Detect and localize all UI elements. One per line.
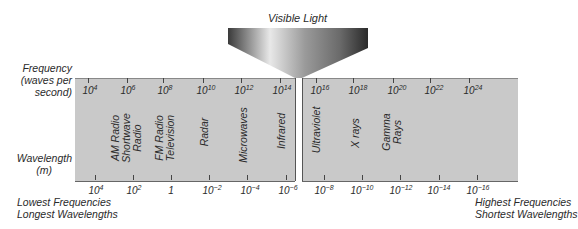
freq-label: 104 — [82, 84, 97, 96]
wavelength-label: 10−4 — [240, 184, 259, 196]
wavelength-label: 104 — [88, 184, 103, 196]
freq-tick — [430, 78, 431, 83]
freq-label: 1022 — [425, 84, 444, 96]
region-infrared: Infrared — [276, 113, 287, 149]
freq-label: 106 — [120, 84, 135, 96]
visible-light-title: Visible Light — [268, 12, 327, 24]
freq-tick — [127, 78, 128, 83]
freq-label: 1016 — [311, 84, 330, 96]
wavelength-tick — [133, 175, 134, 180]
freq-tick — [163, 78, 164, 83]
freq-label: 1010 — [197, 84, 216, 96]
freq-tick — [353, 78, 354, 83]
spectrum-band-right — [302, 78, 518, 182]
freq-tick — [280, 78, 281, 83]
freq-label: 1012 — [235, 84, 254, 96]
wavelength-label: 102 — [126, 184, 141, 196]
frequency-axis-label: Frequency (waves per second) — [0, 62, 72, 98]
wavelength-label: 1 — [168, 184, 174, 196]
wavelength-tick — [477, 175, 478, 180]
wavelength-tick — [171, 175, 172, 180]
wavelength-tick — [362, 175, 363, 180]
wavelength-label: 10−16 — [467, 184, 490, 196]
region-x-rays: X rays — [350, 118, 361, 148]
wavelength-tick — [286, 175, 287, 180]
wavelength-axis-label: Wavelength (m) — [0, 152, 72, 176]
freq-tick — [316, 78, 317, 83]
freq-tick — [88, 78, 89, 83]
freq-label: 1018 — [349, 84, 368, 96]
wavelength-tick — [324, 175, 325, 180]
region-microwaves: Microwaves — [238, 107, 249, 162]
wavelength-tick — [439, 175, 440, 180]
highest-frequencies-caption: Highest Frequencies Shortest Wavelengths — [475, 196, 578, 220]
freq-label: 1014 — [273, 84, 292, 96]
region-gamma-rays: GammaRays — [381, 113, 403, 150]
wavelength-label: 10−14 — [428, 184, 451, 196]
freq-label: 108 — [157, 84, 172, 96]
wavelength-tick — [209, 175, 210, 180]
region-ultraviolet: Ultraviolet — [311, 107, 322, 154]
wavelength-label: 10−12 — [390, 184, 413, 196]
freq-tick — [241, 78, 242, 83]
freq-tick — [203, 78, 204, 83]
region-fm-radio-television: FM RadioTelevision — [154, 115, 176, 161]
freq-label: 1024 — [464, 84, 483, 96]
wavelength-label: 10−6 — [278, 184, 297, 196]
freq-tick — [469, 78, 470, 83]
wavelength-tick — [400, 175, 401, 180]
wavelength-label: 10−10 — [351, 184, 374, 196]
freq-label: 1020 — [388, 84, 407, 96]
region-am-shortwave-radio: AM RadioShortwaveRadio — [110, 113, 143, 163]
wavelength-label: 10−8 — [314, 184, 333, 196]
freq-tick — [393, 78, 394, 83]
lowest-frequencies-caption: Lowest Frequencies Longest Wavelengths — [17, 196, 118, 220]
wavelength-tick — [95, 175, 96, 180]
wavelength-tick — [247, 175, 248, 180]
wavelength-label: 10−2 — [202, 184, 221, 196]
region-radar: Radar — [199, 118, 210, 147]
gap-divider-right — [302, 78, 303, 181]
gap-divider-left — [295, 78, 296, 181]
